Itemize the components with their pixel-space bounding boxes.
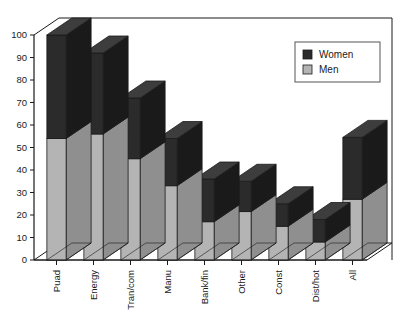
- chart-canvas: 0102030405060708090100 PuadEnergyTran/co…: [0, 0, 411, 325]
- stacked-bar-chart: 0102030405060708090100 PuadEnergyTran/co…: [0, 0, 411, 325]
- y-axis-tick-label: 50: [16, 142, 27, 153]
- women-segment-front: [47, 35, 66, 139]
- men-segment-side: [66, 122, 91, 261]
- men-segment-side: [140, 142, 165, 260]
- y-axis-tick-label: 30: [16, 187, 27, 198]
- legend-label-men: Men: [319, 64, 338, 75]
- x-axis-category-label: Manu: [162, 270, 173, 294]
- legend-box: [295, 42, 380, 82]
- bar-Puad[interactable]: [47, 18, 91, 260]
- legend-swatch-women: [303, 50, 312, 59]
- men-segment-side: [103, 117, 128, 260]
- x-axis-category-label: Puad: [51, 270, 62, 292]
- y-axis-tick-label: 40: [16, 164, 27, 175]
- legend-label-women: Women: [319, 49, 353, 60]
- y-axis-tick-label: 0: [22, 254, 27, 265]
- x-axis-category-label: Energy: [88, 270, 99, 300]
- legend[interactable]: Women Men: [295, 42, 380, 82]
- x-axis-category-label: Bank/fin: [199, 270, 210, 304]
- x-axis-category-label: Tran/com: [125, 270, 136, 310]
- women-segment-front: [343, 137, 362, 199]
- legend-swatch-men: [303, 65, 312, 74]
- x-axis-category-label: Const: [273, 270, 284, 295]
- y-axis-tick-label: 90: [16, 52, 27, 63]
- men-segment-front: [47, 139, 66, 261]
- y-axis-tick-label: 60: [16, 119, 27, 130]
- women-segment-side: [66, 18, 91, 139]
- x-axis-category-label: Dist/hot: [310, 270, 321, 303]
- x-axis-category-label: Other: [236, 270, 247, 294]
- y-axis-tick-label: 20: [16, 209, 27, 220]
- y-axis-tick-label: 10: [16, 232, 27, 243]
- y-axis-tick-label: 80: [16, 74, 27, 85]
- y-axis-tick-label: 70: [16, 97, 27, 108]
- y-axis-tick-label: 100: [11, 29, 27, 40]
- y-axis: 0102030405060708090100: [11, 29, 34, 265]
- x-axis-category-label: All: [347, 270, 358, 281]
